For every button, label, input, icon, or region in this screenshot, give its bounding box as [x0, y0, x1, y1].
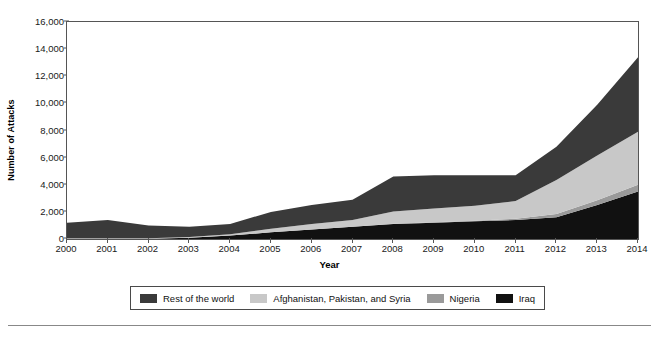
- y-tick-label: 4,000: [20, 178, 64, 189]
- bottom-divider: [8, 325, 651, 326]
- y-axis-title-text: Number of Attacks: [6, 99, 16, 180]
- y-tick-label: 2,000: [20, 205, 64, 216]
- x-tick-mark: [352, 238, 353, 243]
- legend-label: Iraq: [519, 293, 535, 304]
- x-tick-label: 2013: [586, 243, 607, 254]
- x-axis-title: Year: [0, 259, 659, 270]
- legend-item[interactable]: Iraq: [496, 293, 535, 304]
- legend-swatch-icon: [140, 294, 157, 303]
- x-tick-mark: [596, 238, 597, 243]
- y-tick-label: 14,000: [20, 43, 64, 54]
- x-tick-label: 2000: [55, 243, 76, 254]
- y-tick-label: 8,000: [20, 124, 64, 135]
- x-tick-label: 2008: [382, 243, 403, 254]
- x-tick-label: 2012: [545, 243, 566, 254]
- legend-swatch-icon: [250, 294, 267, 303]
- legend-item[interactable]: Nigeria: [427, 293, 480, 304]
- x-tick-label: 2010: [463, 243, 484, 254]
- legend-item[interactable]: Afghanistan, Pakistan, and Syria: [250, 293, 410, 304]
- legend-item[interactable]: Rest of the world: [140, 293, 234, 304]
- x-tick-mark: [515, 238, 516, 243]
- plot-area: [66, 21, 639, 240]
- x-tick-label: 2009: [422, 243, 443, 254]
- x-tick-label: 2011: [504, 243, 524, 254]
- legend-label: Rest of the world: [163, 293, 234, 304]
- chart-legend: Rest of the worldAfghanistan, Pakistan, …: [130, 286, 545, 310]
- y-tick-label: 6,000: [20, 151, 64, 162]
- x-tick-mark: [188, 238, 189, 243]
- x-tick-label: 2014: [626, 243, 647, 254]
- x-tick-label: 2006: [300, 243, 321, 254]
- y-tick-label: 12,000: [20, 70, 64, 81]
- x-tick-mark: [107, 238, 108, 243]
- legend-swatch-icon: [496, 294, 513, 303]
- x-tick-label: 2007: [341, 243, 362, 254]
- y-tick-label: 10,000: [20, 97, 64, 108]
- x-tick-mark: [66, 238, 67, 243]
- legend-label: Afghanistan, Pakistan, and Syria: [273, 293, 410, 304]
- y-axis-ticks: 02,0004,0006,0008,00010,00012,00014,0001…: [18, 0, 64, 337]
- x-tick-mark: [474, 238, 475, 243]
- x-tick-mark: [311, 238, 312, 243]
- x-tick-label: 2005: [259, 243, 280, 254]
- legend-swatch-icon: [427, 294, 444, 303]
- stacked-area-svg: [67, 22, 638, 239]
- x-tick-mark: [637, 238, 638, 243]
- legend-label: Nigeria: [450, 293, 480, 304]
- chart-figure: Number of Attacks 02,0004,0006,0008,0001…: [0, 0, 659, 337]
- x-tick-mark: [392, 238, 393, 243]
- y-tick-label: 0: [20, 233, 64, 244]
- x-tick-label: 2001: [96, 243, 117, 254]
- x-tick-mark: [433, 238, 434, 243]
- x-tick-mark: [270, 238, 271, 243]
- x-tick-label: 2004: [219, 243, 240, 254]
- x-axis-ticks: 2000200120022003200420052006200720082009…: [0, 243, 659, 259]
- x-tick-mark: [229, 238, 230, 243]
- x-tick-label: 2002: [137, 243, 158, 254]
- x-tick-label: 2003: [178, 243, 199, 254]
- x-tick-mark: [555, 238, 556, 243]
- y-tick-label: 16,000: [20, 16, 64, 27]
- x-tick-mark: [148, 238, 149, 243]
